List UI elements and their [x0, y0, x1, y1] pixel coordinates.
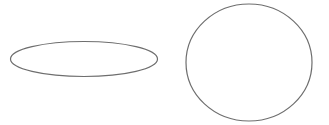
flat-ellipse-shape [11, 42, 158, 77]
shapes-svg [0, 0, 329, 125]
figure-canvas [0, 0, 329, 125]
circle-shape [186, 4, 312, 121]
